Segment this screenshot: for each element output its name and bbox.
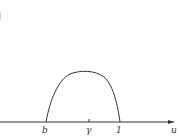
curve <box>46 71 120 122</box>
tick-label-one: 1 <box>116 126 122 135</box>
x-axis-arrow-icon <box>168 120 174 124</box>
chart-plot <box>0 0 179 139</box>
tick-label-gamma: γ <box>86 126 91 135</box>
axis-label-u: u <box>171 126 177 135</box>
tick-label-b: b <box>42 126 48 135</box>
